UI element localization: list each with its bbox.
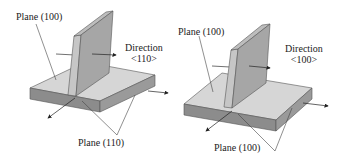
right-direction-text: Direction	[278, 43, 330, 54]
left-direction-label: Direction <110>	[118, 42, 170, 64]
right-direction-value: <100>	[278, 54, 330, 65]
right-plane-bottom-label: Plane (100)	[214, 142, 260, 153]
left-structure	[30, 11, 168, 135]
right-plane-top-label: Plane (100)	[178, 26, 224, 37]
left-direction-value: <110>	[118, 53, 170, 64]
left-plane-top-label: Plane (100)	[16, 11, 62, 22]
crystal-plane-diagram	[0, 0, 344, 163]
left-direction-text: Direction	[118, 42, 170, 53]
left-plane-bottom-label: Plane (110)	[78, 137, 124, 148]
right-direction-label: Direction <100>	[278, 43, 330, 65]
